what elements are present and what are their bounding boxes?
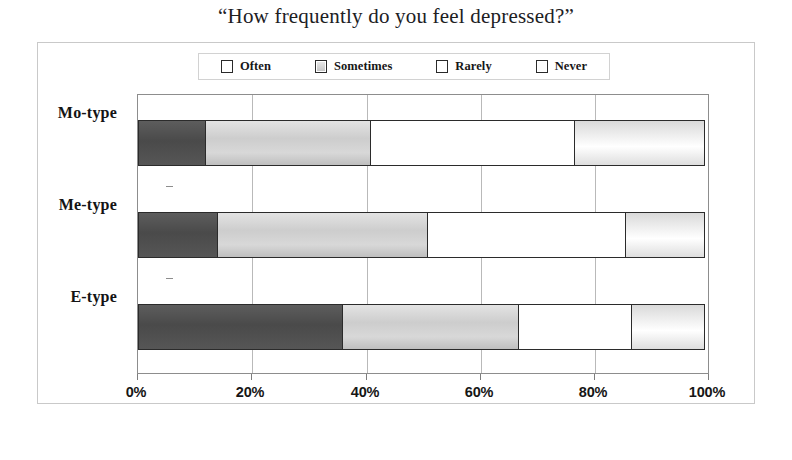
bar-segment-e-rarely[interactable]: [518, 304, 632, 350]
dark-gray-swatch-icon: [221, 60, 233, 73]
bar-segment-e-sometimes[interactable]: [342, 304, 519, 350]
xtick-label-20: 20%: [218, 384, 282, 400]
xtick-label-60: 60%: [447, 384, 511, 400]
legend-item-often[interactable]: Often: [219, 59, 273, 74]
xtick-mark-60: [480, 374, 481, 380]
bar-segment-mo-sometimes[interactable]: [205, 120, 370, 166]
page-title: “How frequently do you feel depressed?”: [0, 4, 792, 29]
pale-gray-swatch-icon: [536, 60, 548, 73]
table-row[interactable]: [138, 212, 708, 258]
chart-legend: Often Sometimes Rarely Never: [198, 53, 610, 80]
table-row[interactable]: [138, 120, 708, 166]
white-swatch-icon: [436, 60, 448, 73]
table-row[interactable]: [138, 304, 708, 350]
xtick-mark-100: [708, 374, 709, 380]
ytick-mark-1: [166, 186, 173, 187]
bar-segment-me-often[interactable]: [138, 212, 218, 258]
light-gray-swatch-icon: [315, 60, 327, 73]
bar-segment-e-never[interactable]: [631, 304, 705, 350]
y-axis-labels: Mo-type Me-type E-type: [0, 42, 131, 404]
legend-label-sometimes: Sometimes: [334, 59, 393, 74]
xtick-mark-20: [251, 374, 252, 380]
ytick-label-e-type: E-type: [7, 288, 117, 306]
xtick-mark-40: [366, 374, 367, 380]
bar-segment-me-rarely[interactable]: [427, 212, 627, 258]
legend-label-never: Never: [555, 59, 587, 74]
bar-segment-me-never[interactable]: [625, 212, 705, 258]
xtick-mark-0: [137, 374, 138, 380]
bar-segment-e-often[interactable]: [138, 304, 343, 350]
bar-segment-mo-often[interactable]: [138, 120, 206, 166]
legend-item-rarely[interactable]: Rarely: [434, 59, 493, 74]
ytick-label-mo-type: Mo-type: [7, 104, 117, 122]
bar-segment-mo-never[interactable]: [574, 120, 705, 166]
bar-segment-me-sometimes[interactable]: [217, 212, 428, 258]
ytick-mark-2: [166, 278, 173, 279]
ytick-label-me-type: Me-type: [7, 196, 117, 214]
legend-item-never[interactable]: Never: [534, 59, 589, 74]
xtick-label-80: 80%: [561, 384, 625, 400]
xtick-label-40: 40%: [333, 384, 397, 400]
bar-segment-mo-rarely[interactable]: [370, 120, 575, 166]
legend-label-rarely: Rarely: [455, 59, 491, 74]
xtick-label-100: 100%: [675, 384, 739, 400]
legend-item-sometimes[interactable]: Sometimes: [313, 59, 395, 74]
xtick-mark-80: [594, 374, 595, 380]
chart-frame: Often Sometimes Rarely Never: [37, 42, 755, 404]
legend-label-often: Often: [240, 59, 271, 74]
xtick-label-0: 0%: [104, 384, 168, 400]
plot-area: [137, 94, 709, 374]
